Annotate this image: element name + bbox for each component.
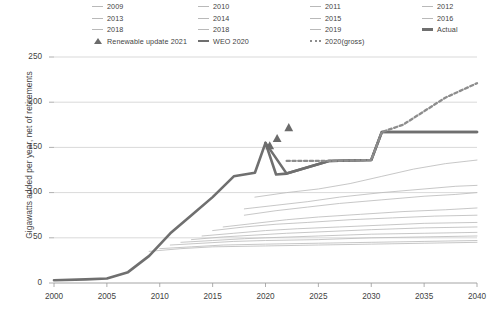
- renewable-update-marker-icon: [273, 134, 282, 142]
- renewable-update-marker-icon: [284, 123, 293, 131]
- series-line: [266, 132, 478, 174]
- series-line: [255, 160, 477, 197]
- series-line: [244, 193, 477, 216]
- series-line: [287, 83, 477, 161]
- series-line: [244, 185, 477, 209]
- series-line: [223, 208, 477, 227]
